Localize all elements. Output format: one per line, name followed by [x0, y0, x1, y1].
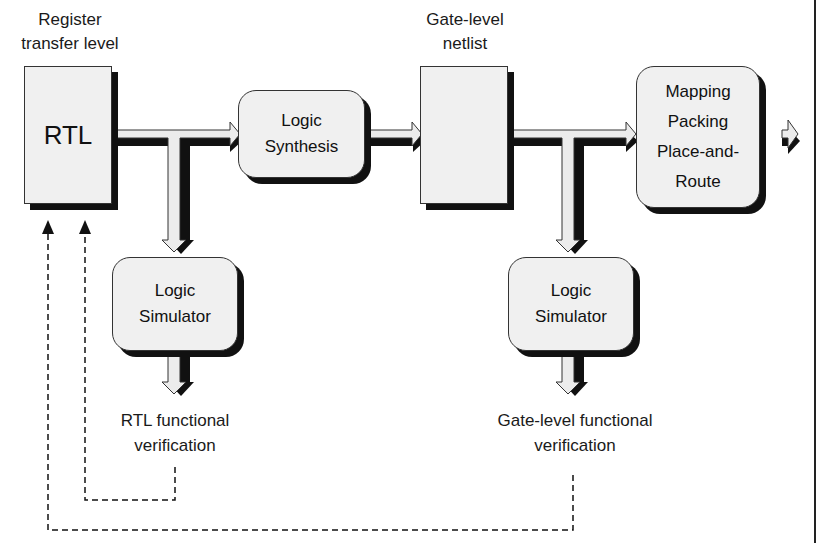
netlist-title-line2: netlist [405, 32, 525, 56]
arrowhead-icon [42, 220, 54, 234]
netlist-title: Gate-level netlist [405, 8, 525, 56]
logic-synthesis-box[interactable]: Logic Synthesis [238, 90, 365, 178]
arrowhead-icon [79, 220, 91, 234]
rtl-title: Register transfer level [0, 8, 140, 56]
sim1-line1: Logic [155, 278, 196, 304]
mapping-line1: Mapping [665, 77, 730, 107]
sim2-line2: Simulator [535, 304, 607, 330]
mapping-line3: Place-and- [657, 137, 739, 167]
logic-simulator-gate-box[interactable]: Logic Simulator [508, 257, 634, 351]
sim1-line2: Simulator [139, 304, 211, 330]
gate-verif-line1: Gate-level functional [455, 408, 695, 433]
gate-verification-label: Gate-level functional verification [455, 408, 695, 458]
mapping-line4: Route [675, 167, 720, 197]
rtl-box[interactable]: RTL [24, 66, 112, 204]
mapping-line2: Packing [668, 107, 728, 137]
rtl-verif-line1: RTL functional [90, 408, 260, 433]
mapping-box[interactable]: Mapping Packing Place-and- Route [636, 66, 760, 208]
sim2-line1: Logic [551, 278, 592, 304]
rtl-title-line1: Register [0, 8, 140, 32]
synthesis-line2: Synthesis [265, 134, 339, 160]
rtl-title-line2: transfer level [0, 32, 140, 56]
rtl-verification-label: RTL functional verification [90, 408, 260, 458]
rtl-box-label: RTL [44, 122, 93, 148]
logic-simulator-rtl-box[interactable]: Logic Simulator [112, 257, 238, 351]
rtl-verif-line2: verification [90, 433, 260, 458]
gate-verif-line2: verification [455, 433, 695, 458]
netlist-box[interactable] [420, 66, 508, 204]
netlist-title-line1: Gate-level [405, 8, 525, 32]
synthesis-line1: Logic [281, 108, 322, 134]
